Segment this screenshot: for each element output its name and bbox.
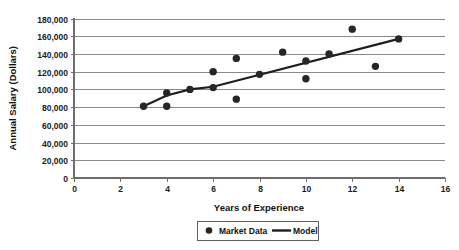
y-tick-label: 140,000: [37, 50, 68, 60]
y-tick-label: 100,000: [37, 85, 68, 95]
chart-legend: Market Data Model: [197, 221, 318, 240]
y-tick-label: 180,000: [37, 15, 68, 25]
y-tick-label: 80,000: [42, 103, 68, 113]
data-point: [325, 50, 332, 57]
y-tick-label: 20,000: [42, 156, 68, 166]
data-point: [233, 55, 240, 62]
data-point: [395, 35, 402, 42]
x-tick-label: 0: [72, 184, 77, 194]
data-point: [302, 57, 309, 64]
y-tick-label: 0: [63, 174, 68, 184]
chart-canvas: 020,00040,00060,00080,000100,000120,0001…: [0, 0, 459, 250]
data-point: [372, 63, 379, 70]
data-point: [302, 75, 309, 82]
y-tick-label: 120,000: [37, 68, 68, 78]
data-point: [209, 68, 216, 75]
data-point: [209, 84, 216, 91]
legend-label-market-data: Market Data: [219, 226, 267, 236]
data-point: [140, 103, 147, 110]
data-point: [186, 86, 193, 93]
legend-label-model: Model: [293, 226, 318, 236]
x-tick-label: 4: [165, 184, 170, 194]
x-tick-label: 6: [211, 184, 216, 194]
data-point: [349, 25, 356, 32]
x-tick-label: 12: [348, 184, 358, 194]
data-point: [279, 48, 286, 55]
y-tick-label: 160,000: [37, 32, 68, 42]
scatter-chart: 020,00040,00060,00080,000100,000120,0001…: [0, 0, 459, 250]
legend-marker-icon: [206, 227, 213, 234]
y-tick-label: 60,000: [42, 121, 68, 131]
x-axis-title: Years of Experience: [214, 202, 304, 213]
data-point: [163, 103, 170, 110]
x-tick-label: 14: [395, 184, 405, 194]
data-point: [233, 95, 240, 102]
y-tick-label: 40,000: [42, 139, 68, 149]
data-point: [256, 71, 263, 78]
x-tick-label: 2: [118, 184, 123, 194]
data-point: [163, 89, 170, 96]
x-tick-label: 10: [302, 184, 312, 194]
x-tick-label: 8: [258, 184, 263, 194]
x-tick-label: 16: [441, 184, 451, 194]
y-axis-title: Annual Salary (Dollars): [7, 46, 18, 151]
